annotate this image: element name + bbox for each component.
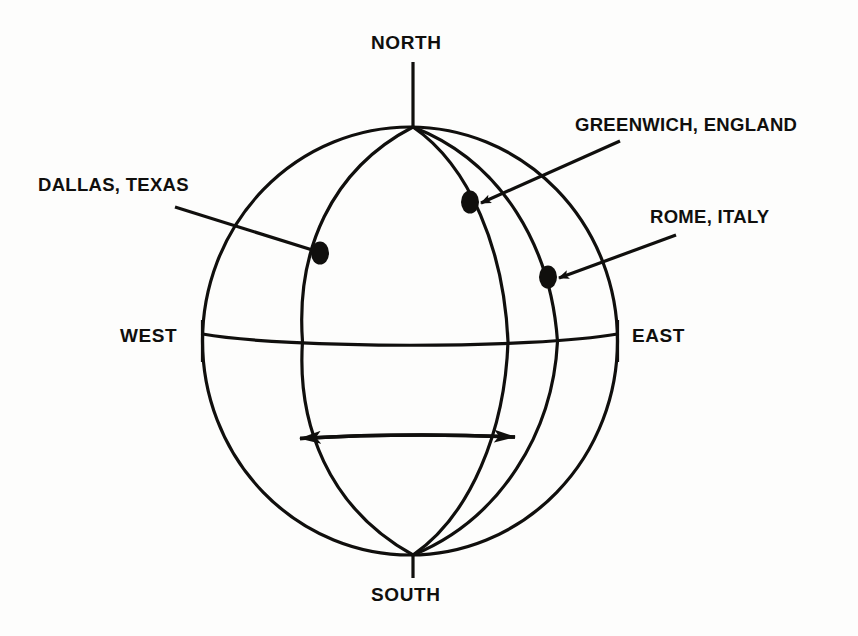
leader-line-dallas <box>175 207 322 253</box>
meridian-west <box>302 127 413 555</box>
leader-line-rome <box>559 235 676 278</box>
diagram-canvas: NORTH SOUTH WEST EAST DALLAS, TEXAS GREE… <box>0 0 858 636</box>
equator-line <box>203 334 618 345</box>
globe-illustration <box>0 0 858 636</box>
meridian-prime <box>413 127 508 555</box>
place-label-rome: ROME, ITALY <box>650 208 769 227</box>
marker-dallas[interactable] <box>311 242 329 265</box>
marker-greenwich[interactable] <box>461 191 479 214</box>
place-label-greenwich: GREENWICH, ENGLAND <box>575 116 797 135</box>
cardinal-label-south: SOUTH <box>371 585 441 604</box>
rotation-arrow-left <box>300 435 515 438</box>
cardinal-label-east: EAST <box>632 326 685 345</box>
place-label-dallas: DALLAS, TEXAS <box>38 176 189 195</box>
cardinal-label-west: WEST <box>120 326 177 345</box>
cardinal-label-north: NORTH <box>371 33 442 52</box>
marker-rome[interactable] <box>539 266 557 289</box>
